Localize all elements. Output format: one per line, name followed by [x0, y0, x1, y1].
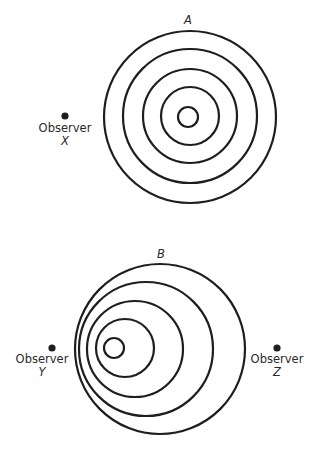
wave-diagram-b: B: [75, 247, 245, 434]
diagram-canvas: A Observer X B Observer Y Observer Z: [0, 0, 326, 467]
diagram-b-label: B: [157, 247, 165, 261]
observer-z: Observer Z: [251, 344, 304, 379]
observer-y-word: Observer: [16, 352, 69, 366]
diagram-a-ring-1: [104, 31, 276, 203]
diagram-a-ring-5: [178, 107, 198, 127]
observer-z-letter: Z: [272, 365, 282, 379]
observer-x-letter: X: [60, 134, 70, 148]
observer-z-word: Observer: [251, 352, 304, 366]
observer-x-dot: [61, 112, 68, 119]
diagram-a-ring-4: [161, 87, 219, 145]
observer-x: Observer X: [39, 112, 92, 148]
diagram-a-label: A: [183, 13, 192, 27]
diagram-b-ring-3: [87, 301, 183, 397]
observer-x-word: Observer: [39, 121, 92, 135]
diagram-b-ring-5: [104, 338, 124, 358]
observer-y-dot: [48, 344, 55, 351]
wave-diagram-a: A: [104, 13, 276, 203]
observer-y-letter: Y: [38, 365, 46, 379]
observer-y: Observer Y: [16, 344, 69, 379]
observer-z-dot: [273, 344, 280, 351]
diagram-a-ring-3: [143, 69, 237, 163]
diagram-b-ring-1: [75, 264, 245, 434]
